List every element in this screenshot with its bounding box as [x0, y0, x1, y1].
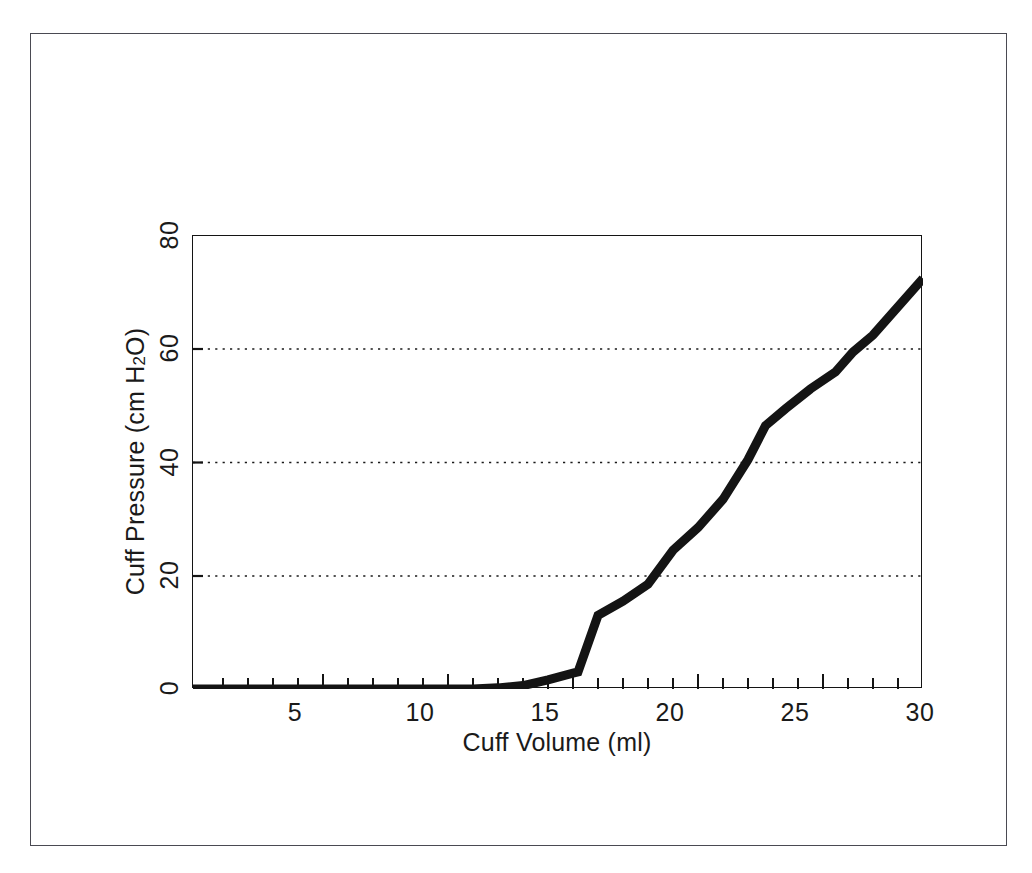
y-major-ticks: [193, 349, 203, 576]
y-tick-label-60: 60: [155, 317, 183, 379]
x-tick-label-30: 30: [890, 698, 950, 728]
x-tick-label-10: 10: [390, 698, 450, 728]
y-tick-label-0: 0: [155, 657, 183, 719]
y-axis-title-suffix: O): [121, 328, 150, 356]
x-axis-title: Cuff Volume (ml): [192, 728, 922, 757]
y-axis-title-prefix: Cuff Pressure (cm H: [121, 366, 150, 596]
y-tick-label-20: 20: [155, 544, 183, 606]
plot-area: [192, 235, 922, 688]
y-axis-title-subscript: 2: [130, 356, 150, 366]
x-tick-label-20: 20: [640, 698, 700, 728]
y-axis-title: Cuff Pressure (cm H2O): [118, 235, 152, 688]
data-series-line: [193, 278, 923, 689]
x-tick-label-25: 25: [765, 698, 825, 728]
plot-svg: [193, 236, 923, 689]
y-tick-label-40: 40: [155, 431, 183, 493]
y-tick-label-80: 80: [155, 204, 183, 266]
x-tick-label-15: 15: [515, 698, 575, 728]
figure-root: Cuff Pressure (cm H2O) 80 60 40 20 0: [0, 0, 1032, 873]
x-tick-label-5: 5: [265, 698, 325, 728]
